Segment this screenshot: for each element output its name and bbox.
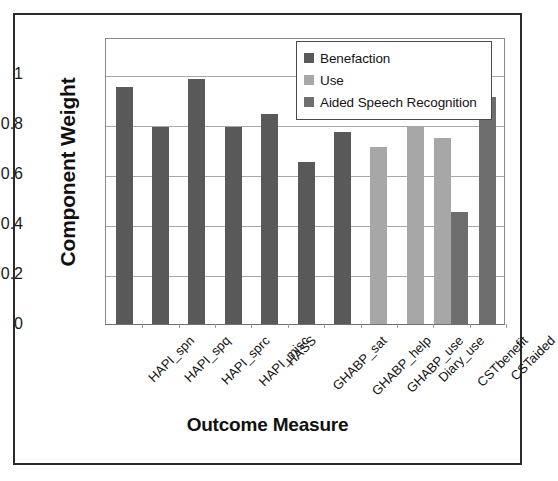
x-tick-mark xyxy=(324,324,325,328)
y-tick-label: 0.2 xyxy=(0,265,23,283)
y-axis-title: Component Weight xyxy=(56,57,80,287)
x-tick-mark xyxy=(397,324,398,328)
bar xyxy=(188,79,205,324)
bar xyxy=(116,87,133,324)
x-tick-label: HASS xyxy=(283,333,319,369)
legend-item: Benefaction xyxy=(304,47,484,69)
x-tick-mark xyxy=(433,324,434,328)
legend-item: Aided Speech Recognition xyxy=(304,91,484,113)
bar xyxy=(451,212,468,324)
legend-label: Use xyxy=(320,73,344,88)
bar xyxy=(370,147,387,324)
y-tick-label: 0.4 xyxy=(0,215,23,233)
x-tick-mark xyxy=(179,324,180,328)
x-tick-mark xyxy=(142,324,143,328)
bar xyxy=(298,162,315,324)
bar xyxy=(261,114,278,324)
bar xyxy=(225,127,242,324)
legend-label: Benefaction xyxy=(320,51,390,66)
x-tick-mark xyxy=(361,324,362,328)
bar xyxy=(152,127,169,324)
legend-label: Aided Speech Recognition xyxy=(320,95,477,110)
x-tick-mark xyxy=(288,324,289,328)
x-axis-title: Outcome Measure xyxy=(15,414,520,436)
x-tick-mark xyxy=(215,324,216,328)
bar xyxy=(434,138,451,324)
x-tick-mark xyxy=(506,324,507,328)
bar xyxy=(334,132,351,324)
y-tick-label: 0 xyxy=(0,315,23,333)
legend-swatch-icon xyxy=(304,97,314,107)
figure-frame: Component Weight 00.20.40.60.81 HAPI_spn… xyxy=(13,13,522,465)
y-tick-label: 0.6 xyxy=(0,165,23,183)
y-tick-label: 1 xyxy=(0,65,23,83)
legend-swatch-icon xyxy=(304,53,314,63)
x-tick-mark xyxy=(470,324,471,328)
legend-item: Use xyxy=(304,69,484,91)
y-tick-label: 0.8 xyxy=(0,115,23,133)
x-tick-mark xyxy=(251,324,252,328)
bar xyxy=(479,97,496,324)
legend-swatch-icon xyxy=(304,75,314,85)
chart-legend: BenefactionUseAided Speech Recognition xyxy=(296,41,492,120)
bar xyxy=(407,126,424,324)
